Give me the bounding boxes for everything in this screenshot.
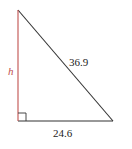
hypotenuse-side [18,10,113,121]
base-label: 24.6 [53,128,72,139]
right-angle-marker [18,113,26,121]
right-triangle-diagram: h 36.9 24.6 [0,0,132,149]
height-label: h [8,66,14,77]
hypotenuse-label: 36.9 [69,57,88,68]
